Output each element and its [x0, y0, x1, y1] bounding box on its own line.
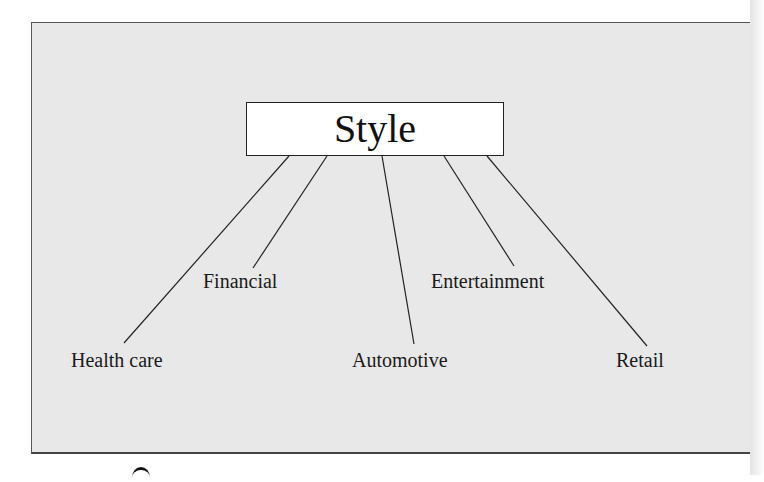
connector-automotive: [382, 156, 414, 344]
child-node-financial: Financial: [203, 271, 277, 291]
child-node-retail: Retail: [616, 350, 664, 370]
cropped-circle-icon: [132, 467, 150, 482]
connector-financial: [253, 156, 327, 268]
child-node-automotive: Automotive: [352, 350, 448, 370]
connector-health-care: [124, 156, 289, 343]
connector-retail: [487, 156, 647, 346]
root-node-box: Style: [246, 102, 504, 156]
connector-entertainment: [444, 156, 514, 266]
root-node-label: Style: [334, 109, 416, 149]
child-node-entertainment: Entertainment: [431, 271, 544, 291]
child-node-health-care: Health care: [71, 350, 163, 370]
